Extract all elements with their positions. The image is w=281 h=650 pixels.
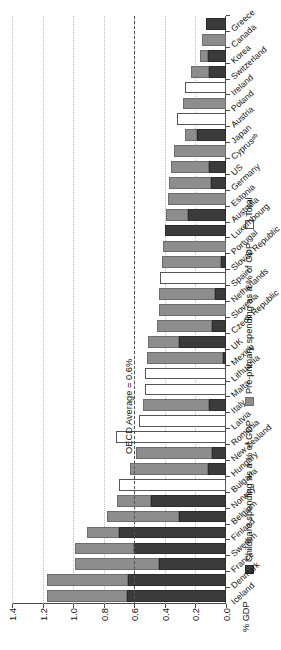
bar-group — [12, 558, 226, 570]
value-axis-ticklabel: 0.6 — [129, 608, 140, 621]
bar-group — [12, 590, 226, 602]
oecd-average-line — [134, 16, 135, 604]
category-axis-tickmark — [226, 158, 230, 159]
category-axis-tickmark — [226, 31, 230, 32]
plot-area: 1.41.21.00.80.60.40.20.0 IcelandDenmarkF… — [12, 16, 226, 604]
bar-segment-preprimary — [159, 304, 226, 316]
bar-segment-preprimary — [47, 574, 128, 586]
bar-group — [12, 272, 226, 284]
bar-segment-childcare — [209, 161, 226, 173]
value-axis-ticklabel: 0.8 — [98, 608, 109, 621]
category-axis-tickmark — [226, 190, 230, 191]
bar-segment-preprimary — [147, 352, 223, 364]
bar-segment-childcare — [206, 18, 226, 30]
bar-segment-preprimary — [200, 50, 208, 62]
category-axis-tickmark — [226, 15, 230, 16]
bar-group — [12, 66, 226, 78]
bar-group — [12, 18, 226, 30]
bar-segment-childcare — [208, 50, 226, 62]
bar-group — [12, 543, 226, 555]
bar-group — [12, 288, 226, 300]
category-axis-tickmark — [226, 126, 230, 127]
bar-segment-total — [145, 384, 226, 396]
bar-segment-preprimary — [174, 145, 226, 157]
bar-segment-total — [185, 82, 226, 94]
chart-figure: % GDP Childcare spending as a % of GDPPr… — [0, 0, 281, 650]
category-axis-tickmark — [226, 301, 230, 302]
bar-segment-preprimary — [169, 177, 210, 189]
category-axis-tickmark — [226, 110, 230, 111]
bar-group — [12, 431, 226, 443]
category-axis-tickmark — [226, 269, 230, 270]
category-axis-tickmark — [226, 428, 230, 429]
bar-group — [12, 463, 226, 475]
bar-segment-childcare — [197, 129, 226, 141]
category-axis-tickmark — [226, 238, 230, 239]
bar-group — [12, 145, 226, 157]
category-axis-tickmark — [226, 206, 230, 207]
bar-segment-preprimary — [157, 320, 212, 332]
bar-segment-preprimary — [168, 193, 226, 205]
value-axis-ticklabel: 1.0 — [68, 608, 79, 621]
bar-segment-childcare — [215, 288, 226, 300]
category-axis-tickmark — [226, 47, 230, 48]
category-axis-tickmark — [226, 555, 230, 556]
value-axis-ticklabel: 0.0 — [221, 608, 232, 621]
bar-segment-preprimary — [75, 543, 135, 555]
category-axis-tickmark — [226, 94, 230, 95]
category-axis-tickmark — [226, 174, 230, 175]
bar-group — [12, 415, 226, 427]
bar-group — [12, 320, 226, 332]
bar-segment-total — [160, 272, 226, 284]
bar-group — [12, 479, 226, 491]
bar-group — [12, 352, 226, 364]
bar-segment-preprimary — [191, 66, 209, 78]
bar-group — [12, 241, 226, 253]
category-axis-tickmark — [226, 142, 230, 143]
bar-segment-preprimary — [107, 511, 179, 523]
category-axis-tickmark — [226, 524, 230, 525]
bar-group — [12, 574, 226, 586]
bar-group — [12, 495, 226, 507]
bar-segment-childcare — [208, 463, 226, 475]
bar-group — [12, 225, 226, 237]
bar-group — [12, 34, 226, 46]
category-axis-tickmark — [226, 365, 230, 366]
category-axis-tickmark — [226, 587, 230, 588]
bar-segment-childcare — [151, 495, 226, 507]
bar-group — [12, 399, 226, 411]
bar-group — [12, 336, 226, 348]
bar-segment-childcare — [212, 320, 226, 332]
category-axis-tickmark — [226, 492, 230, 493]
bar-group — [12, 384, 226, 396]
value-axis-title: % GDP — [241, 601, 251, 632]
bar-segment-total — [145, 368, 226, 380]
bar-segment-preprimary — [87, 527, 119, 539]
bar-group — [12, 511, 226, 523]
bar-segment-childcare — [221, 256, 226, 268]
bar-segment-preprimary — [183, 98, 226, 110]
category-axis-tickmark — [226, 63, 230, 64]
bar-group — [12, 447, 226, 459]
bar-segment-childcare — [209, 399, 226, 411]
category-axis-tickmark — [226, 444, 230, 445]
bar-segment-preprimary — [185, 129, 197, 141]
bar-segment-preprimary — [143, 399, 209, 411]
bar-group — [12, 113, 226, 125]
bar-segment-preprimary — [75, 558, 159, 570]
bar-segment-childcare — [209, 66, 226, 78]
bar-segment-preprimary — [148, 336, 179, 348]
category-axis-tickmark — [226, 396, 230, 397]
bar-segment-total — [139, 415, 226, 427]
bar-group — [12, 50, 226, 62]
category-axis-tickmark — [226, 317, 230, 318]
bar-group — [12, 304, 226, 316]
bar-group — [12, 209, 226, 221]
category-axis-tickmark — [226, 412, 230, 413]
category-axis-tickmark — [226, 460, 230, 461]
bar-segment-preprimary — [47, 590, 126, 602]
bar-group — [12, 527, 226, 539]
category-axis-tickmark — [226, 571, 230, 572]
bar-segment-childcare — [188, 209, 226, 221]
category-axis-tickmark — [226, 79, 230, 80]
